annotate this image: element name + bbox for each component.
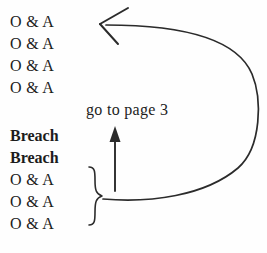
arrowhead-lower-barb <box>100 24 118 44</box>
list-item: O & A <box>10 14 54 30</box>
list-item: Breach <box>10 150 59 166</box>
list-item: O & A <box>10 58 54 74</box>
list-item: Breach <box>10 128 59 144</box>
list-item: O & A <box>10 36 54 52</box>
diagram-canvas: O & A O & A O & A O & A Breach Breach O … <box>0 0 267 253</box>
list-item: O & A <box>10 194 54 210</box>
go-to-page-annotation: go to page 3 <box>86 102 168 118</box>
list-item: O & A <box>10 172 54 188</box>
list-item: O & A <box>10 80 54 96</box>
group-brace <box>89 167 102 225</box>
list-item: O & A <box>10 216 54 232</box>
go-to-page-arrow <box>110 126 121 191</box>
arrowhead-upper-barb <box>100 8 128 24</box>
arrowhead-up <box>110 126 121 142</box>
